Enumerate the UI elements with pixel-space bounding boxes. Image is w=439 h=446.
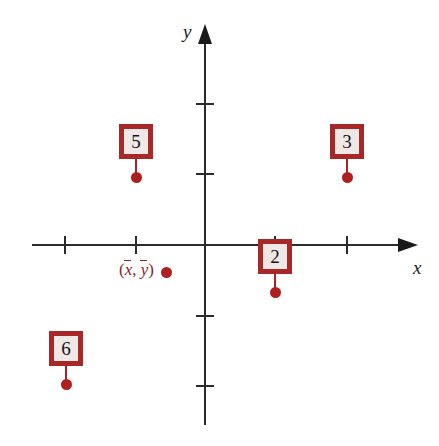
mass-point-dot-2	[270, 287, 281, 298]
centroid-label-y-bar: y	[141, 261, 149, 278]
mass-point-dot-5	[131, 172, 142, 183]
mass-box-label-6: 6	[49, 331, 83, 366]
centroid-dot	[161, 267, 172, 278]
mass-point-dot-3	[342, 172, 353, 183]
coordinate-plane-figure: y x 5 3 2 6 (x, y)	[0, 0, 439, 446]
centroid-label: (x, y)	[119, 261, 154, 278]
y-axis-label: y	[183, 22, 191, 41]
centroid-label-x-bar: x	[125, 261, 133, 278]
mass-point-dot-6	[61, 379, 72, 390]
centroid-label-separator: ,	[132, 260, 141, 279]
mass-box-label-2: 2	[258, 239, 292, 274]
mass-box-label-3: 3	[330, 124, 364, 159]
y-axis-arrowhead	[198, 24, 212, 44]
x-axis-label: x	[413, 258, 421, 277]
centroid-label-close: )	[148, 260, 154, 279]
x-axis-arrowhead	[398, 238, 418, 252]
mass-box-label-5: 5	[119, 124, 153, 159]
